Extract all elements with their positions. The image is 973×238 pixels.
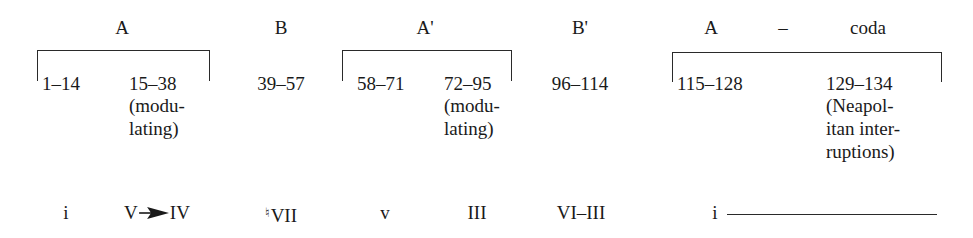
natural-sign-icon: ♮: [265, 205, 270, 220]
note-line: (modu-: [444, 94, 500, 117]
note-line: (modu-: [129, 94, 185, 117]
measure-range: 72–95: [444, 72, 492, 95]
key-to: IV: [170, 202, 190, 223]
section-label-b: B: [275, 16, 288, 39]
note-line: lating): [129, 117, 185, 140]
measure-range: 15–38: [129, 72, 177, 95]
key-label: III: [468, 201, 487, 224]
key-label: v: [380, 201, 390, 224]
continuation-line: [727, 214, 937, 215]
note-line: lating): [444, 117, 500, 140]
key-progression: V IV: [124, 201, 190, 224]
measure-range: 1–14: [42, 72, 80, 95]
section-label-coda: coda: [850, 16, 886, 39]
section-label-a: A: [115, 16, 129, 39]
key-label: i: [63, 201, 68, 224]
note-line: itan inter-: [826, 117, 900, 140]
section-label-a-prime: A': [416, 16, 433, 39]
measure-range: 58–71: [357, 72, 405, 95]
measure-note: (modu- lating): [444, 94, 500, 140]
section-dash: –: [778, 16, 788, 39]
key-from: V: [124, 202, 138, 223]
key-label: ♮VII: [265, 201, 297, 227]
measure-range: 96–114: [552, 72, 608, 95]
note-line: ruptions): [826, 140, 900, 163]
key-label: VI–III: [557, 201, 606, 224]
arrow-right-icon: [139, 206, 169, 220]
measure-note: (modu- lating): [129, 94, 185, 140]
section-label-a-return: A: [704, 16, 718, 39]
key-label: i: [712, 201, 717, 224]
note-line: (Neapol-: [826, 94, 900, 117]
section-label-b-prime: B': [572, 16, 588, 39]
measure-range: 39–57: [257, 72, 305, 95]
measure-note: (Neapol- itan inter- ruptions): [826, 94, 900, 163]
key-numeral: VII: [271, 205, 297, 226]
measure-range: 129–134: [826, 72, 893, 95]
measure-range: 115–128: [677, 72, 743, 95]
